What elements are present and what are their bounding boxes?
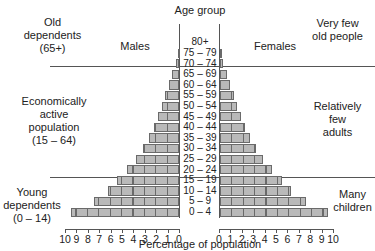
male-bar xyxy=(165,91,179,100)
annotation-line: Young xyxy=(2,186,62,199)
x-axis-title: Percentage of population xyxy=(120,238,280,251)
annotation-line: (65+) xyxy=(10,42,95,55)
male-bar xyxy=(71,208,179,217)
annotation-line: children xyxy=(330,201,375,214)
age-label: 60 – 64 xyxy=(181,80,219,91)
male-bar xyxy=(172,70,179,79)
age-label: 45 – 49 xyxy=(181,112,219,123)
female-bar xyxy=(220,186,291,195)
female-bar xyxy=(220,176,282,185)
age-label: 25 – 29 xyxy=(181,154,219,165)
females-label: Females xyxy=(245,40,305,53)
female-bar xyxy=(220,123,245,132)
age-label: 40 – 44 xyxy=(181,122,219,133)
age-label: 5 – 9 xyxy=(181,196,219,207)
annotation-line: Relatively xyxy=(300,100,375,113)
female-bar xyxy=(220,144,256,153)
female-bar xyxy=(220,91,234,100)
annotation-many-children: Many children xyxy=(330,188,375,214)
annotation-line: Old xyxy=(10,16,95,29)
female-bar xyxy=(220,197,306,206)
annotation-line: dependents xyxy=(2,199,62,212)
female-bar xyxy=(220,133,250,142)
female-bar xyxy=(220,80,230,89)
annotation-line: Many xyxy=(330,188,375,201)
males-label: Males xyxy=(110,40,160,53)
annotation-line: (0 – 14) xyxy=(2,212,62,225)
annotation-very-few-old: Very few old people xyxy=(300,17,375,43)
annotation-line: dependents xyxy=(10,29,95,42)
female-bar xyxy=(220,70,227,79)
annotation-line: old people xyxy=(300,30,375,43)
annotation-line: Very few xyxy=(300,17,375,30)
female-bar xyxy=(220,208,328,217)
male-bar xyxy=(178,49,180,58)
male-bar xyxy=(169,80,179,89)
age-label: 20 – 24 xyxy=(181,165,219,176)
age-label: 15 – 19 xyxy=(181,175,219,186)
age-label: 30 – 34 xyxy=(181,143,219,154)
annotation-line: adults xyxy=(300,126,375,139)
male-bar xyxy=(162,102,179,111)
female-bar xyxy=(220,155,263,164)
female-bar xyxy=(220,102,237,111)
male-bar xyxy=(127,165,179,174)
female-bar xyxy=(220,59,223,68)
female-bar xyxy=(220,49,222,58)
age-label: 70 – 74 xyxy=(181,59,219,70)
female-tick-label: 10 xyxy=(326,233,340,245)
male-bar xyxy=(143,144,179,153)
annotation-line: active xyxy=(8,108,100,121)
male-bar xyxy=(94,197,180,206)
female-bar xyxy=(220,112,241,121)
annotation-old-dependents: Old dependents (65+) xyxy=(10,16,95,55)
age-label: 55 – 59 xyxy=(181,90,219,101)
male-bar xyxy=(154,123,179,132)
age-label: 0 – 4 xyxy=(181,207,219,218)
age-label: 50 – 54 xyxy=(181,101,219,112)
annotation-line: population xyxy=(8,121,100,134)
annotation-relatively-few-adults: Relatively few adults xyxy=(300,100,375,139)
age-label: 35 – 39 xyxy=(181,133,219,144)
age-label: 65 – 69 xyxy=(181,69,219,80)
age-label: 10 – 14 xyxy=(181,186,219,197)
age-group-title: Age group xyxy=(160,4,240,17)
annotation-economically-active: Economically active population (15 – 64) xyxy=(8,95,100,147)
male-bar xyxy=(176,59,179,68)
annotation-line: (15 – 64) xyxy=(8,134,100,147)
male-bar xyxy=(149,133,179,142)
age-label: 80+ xyxy=(181,37,219,48)
male-bar xyxy=(108,186,179,195)
annotation-young-dependents: Young dependents (0 – 14) xyxy=(2,186,62,225)
male-bar xyxy=(136,155,179,164)
annotation-line: few xyxy=(300,113,375,126)
annotation-line: Economically xyxy=(8,95,100,108)
age-label: 75 – 79 xyxy=(181,48,219,59)
male-bar xyxy=(158,112,179,121)
female-bar xyxy=(220,165,272,174)
male-bar xyxy=(117,176,179,185)
